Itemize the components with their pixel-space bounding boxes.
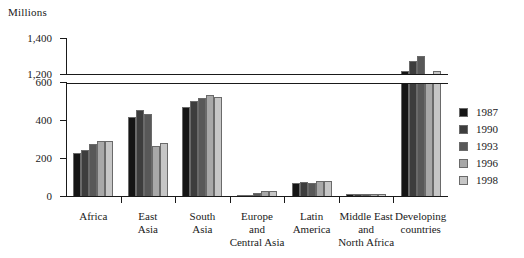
legend-item-label: 1998 <box>476 175 498 186</box>
bar <box>144 114 152 196</box>
legend-item-label: 1996 <box>476 158 498 169</box>
bar-group-bars <box>73 38 113 196</box>
bar <box>160 143 168 196</box>
legend-item-label: 1987 <box>476 107 498 118</box>
x-axis-category-label: South Asia <box>171 210 234 236</box>
bar <box>253 193 261 196</box>
x-axis-tick <box>175 196 176 203</box>
bar <box>136 110 144 196</box>
legend-item-label: 1993 <box>476 141 498 152</box>
legend-swatch-icon <box>459 125 468 134</box>
bar-group-bars <box>237 38 277 196</box>
legend-item: 1993 <box>459 138 498 155</box>
x-axis-category-label: Middle East and North Africa <box>335 210 398 249</box>
bar <box>237 195 245 196</box>
bar <box>300 182 308 196</box>
bar-group-bars <box>346 38 386 196</box>
x-axis-tick <box>230 196 231 203</box>
legend-item: 1987 <box>459 104 498 121</box>
bar-group <box>73 38 113 196</box>
plot-area: 02004006001,2001,400 AfricaEast AsiaSout… <box>66 38 448 196</box>
y-axis-unit-label: Millions <box>8 6 47 18</box>
bar-group-bars <box>292 38 332 196</box>
bar <box>401 71 409 196</box>
x-axis-category-label: East Asia <box>117 210 180 236</box>
legend-item: 1998 <box>459 172 498 189</box>
bar-group <box>182 38 222 196</box>
bar <box>308 183 316 196</box>
bar <box>378 194 386 196</box>
legend-swatch-icon <box>459 176 468 185</box>
legend-swatch-icon <box>459 108 468 117</box>
y-axis-line-lower <box>66 82 67 196</box>
y-axis-line-upper <box>66 38 67 74</box>
bar <box>316 181 324 196</box>
bar <box>152 146 160 196</box>
bar-group-bars <box>182 38 222 196</box>
legend-swatch-icon <box>459 142 468 151</box>
x-axis-tick <box>393 196 394 203</box>
bar <box>433 71 441 196</box>
bar-group <box>128 38 168 196</box>
bar <box>206 95 214 196</box>
y-axis-tick <box>60 196 67 197</box>
bar <box>89 144 97 196</box>
bar <box>324 181 332 196</box>
bar <box>214 97 222 196</box>
bar-chart: Millions 02004006001,2001,400 AfricaEast… <box>0 0 524 258</box>
x-axis-category-label: Africa <box>62 210 125 223</box>
bar <box>370 194 378 196</box>
bar <box>292 183 300 196</box>
bar-group <box>237 38 277 196</box>
x-axis-tick <box>339 196 340 203</box>
y-axis-tick-label: 1,400 <box>6 33 52 44</box>
bar <box>81 150 89 196</box>
y-axis-tick-label: 0 <box>6 191 52 202</box>
bar-group <box>292 38 332 196</box>
y-axis-tick-label: 200 <box>6 153 52 164</box>
bar-group-bars <box>401 38 441 196</box>
y-axis-tick <box>60 120 67 121</box>
legend-item: 1990 <box>459 121 498 138</box>
bar <box>128 117 136 196</box>
axis-break-band <box>67 74 448 84</box>
y-axis-tick <box>60 158 67 159</box>
bar <box>354 194 362 196</box>
bar <box>425 74 433 196</box>
bar <box>73 153 81 196</box>
bar <box>105 141 113 196</box>
x-axis-tick <box>284 196 285 203</box>
bar-group-bars <box>128 38 168 196</box>
bar <box>97 141 105 196</box>
y-axis-tick-label: 1,200 <box>6 69 52 80</box>
x-axis-tick <box>121 196 122 203</box>
x-axis-category-label: Developing countries <box>389 210 452 236</box>
bar <box>182 107 190 196</box>
legend-item-label: 1990 <box>476 124 498 135</box>
bar <box>245 195 253 196</box>
y-axis-tick <box>60 38 67 39</box>
y-axis-tick-label: 400 <box>6 115 52 126</box>
legend-swatch-icon <box>459 159 468 168</box>
bar <box>190 101 198 196</box>
bar <box>198 98 206 196</box>
bar <box>346 194 354 196</box>
legend-item: 1996 <box>459 155 498 172</box>
bar-group <box>346 38 386 196</box>
x-axis-category-label: Latin America <box>280 210 343 236</box>
bar <box>261 191 269 196</box>
legend: 19871990199319961998 <box>459 104 498 189</box>
x-axis-line <box>66 196 448 197</box>
bar <box>269 191 277 196</box>
bar <box>362 194 370 196</box>
bar-group <box>401 38 441 196</box>
x-axis-category-label: Europe and Central Asia <box>226 210 289 249</box>
